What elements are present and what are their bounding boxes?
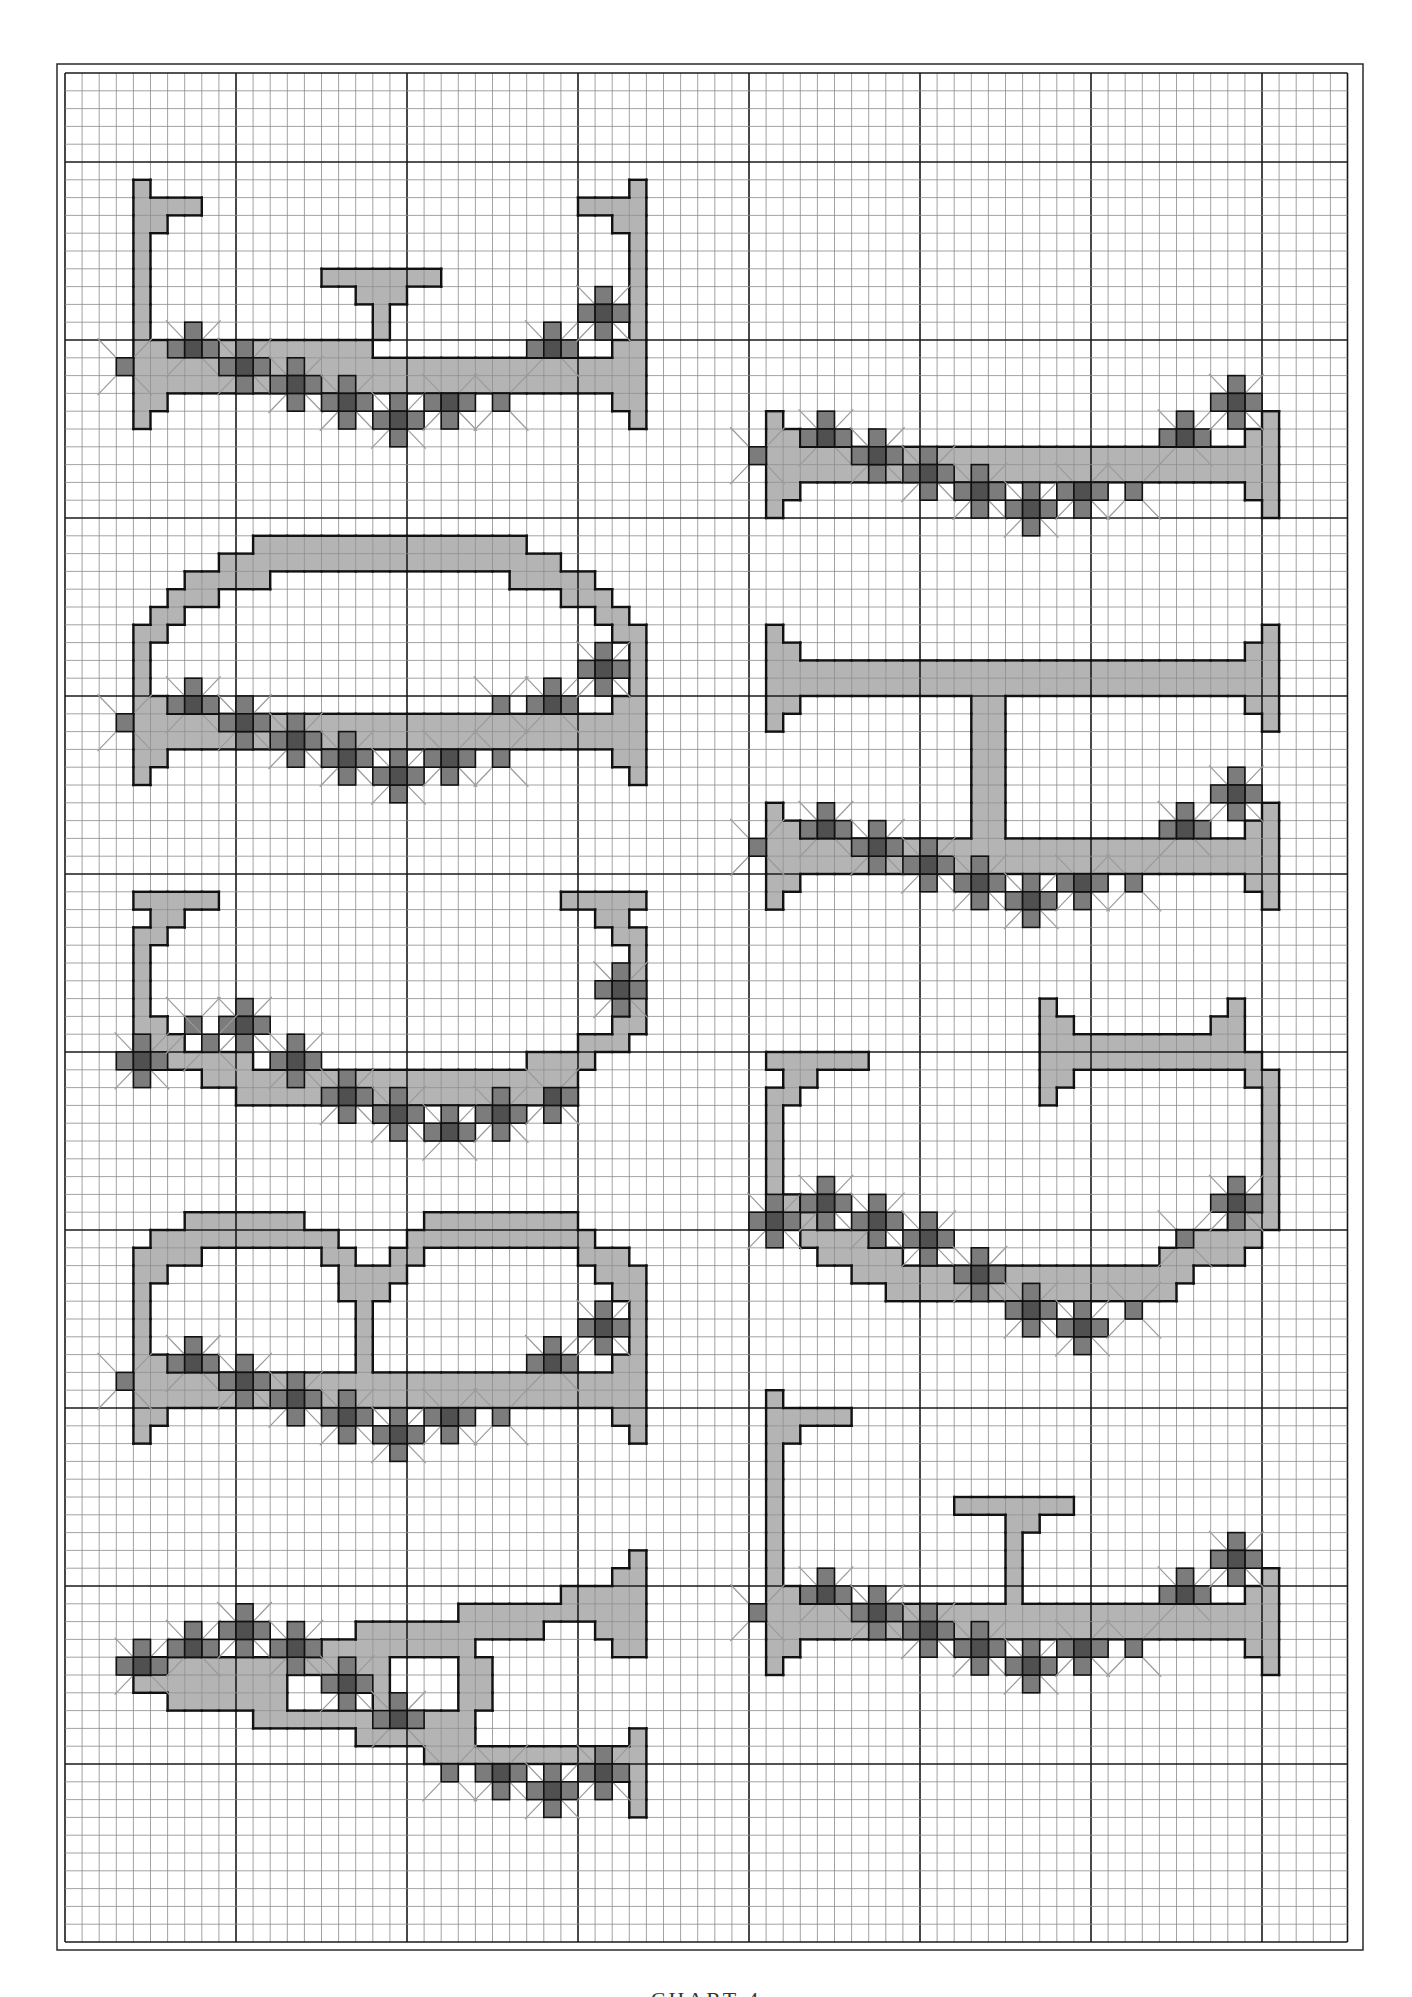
fill-cell [1194,1622,1211,1640]
fill-cell [133,393,150,411]
backstitch-line [320,412,338,431]
fill-cell [783,1604,800,1622]
fill-cell [595,1034,612,1052]
flower-petal-stitch [886,838,903,856]
backstitch-line [152,1638,170,1657]
backstitch-line [166,1335,184,1354]
flower-petal-stitch [988,1266,1005,1284]
fill-cell [1108,1052,1125,1070]
fill-cell [424,358,441,376]
flower-petal-stitch [253,1372,270,1390]
fill-cell [1245,643,1262,661]
fill-cell [1211,1604,1228,1622]
fill-cell [629,1764,646,1782]
fill-cell [1074,678,1091,696]
fill-cell [304,1088,321,1106]
flower-center-stitch [544,1782,561,1800]
fill-cell [527,1230,544,1248]
fill-cell [937,678,954,696]
flower-petal-stitch [852,838,869,856]
fill-cell [1177,1622,1194,1640]
fill-cell [1245,856,1262,874]
fill-cell [920,1283,937,1301]
fill-cell [920,1266,937,1284]
fill-cell [304,1711,321,1729]
fill-cell [1057,678,1074,696]
fill-cell [270,536,287,554]
backstitch-line [166,320,184,339]
fill-cell [1228,1604,1245,1622]
flower-petal-stitch [1159,429,1176,447]
backstitch-line [203,320,221,339]
flower-petal-stitch [168,1355,185,1373]
fill-cell [1091,447,1108,465]
fill-cell [270,554,287,572]
fill-cell [595,714,612,732]
fill-cell [612,892,629,910]
flower-petal-stitch [339,1390,356,1408]
fill-cell [766,482,783,500]
fill-cell [1245,1052,1262,1070]
fill-cell [424,1230,441,1248]
fill-cell [287,340,304,358]
fill-cell [766,1177,783,1195]
flower-petal-stitch [1245,1194,1262,1212]
fill-cell [304,536,321,554]
fill-cell [390,714,407,732]
fill-cell [1262,678,1279,696]
fill-cell [1006,1266,1023,1284]
flower-center-stitch [869,447,886,465]
flower-center-stitch [390,1426,407,1444]
fill-cell [458,1088,475,1106]
backstitch-line [357,1106,375,1125]
fill-cell [441,376,458,394]
fill-cell [629,1604,646,1622]
backstitch-line [1106,501,1124,520]
backstitch-line [1195,409,1213,428]
flower-center-stitch [287,376,304,394]
fill-cell [1108,1604,1125,1622]
flower-petal-stitch [835,1586,852,1604]
fill-cell [971,749,988,767]
fill-cell [1177,856,1194,874]
fill-cell [1091,838,1108,856]
fill-cell [1177,678,1194,696]
fill-cell [988,714,1005,732]
flower-petal-stitch [116,358,133,376]
flower-petal-stitch [116,1052,133,1070]
fill-cell [527,1604,544,1622]
flower-petal-stitch [373,1711,390,1729]
backstitch-line [747,1193,765,1212]
flower-petal-stitch [322,749,339,767]
fill-cell [1057,1283,1074,1301]
flower-petal-stitch [527,340,544,358]
flower-petal-stitch [1057,1319,1074,1337]
fill-cell [612,393,629,411]
fill-cell [510,554,527,572]
fill-cell [1057,1604,1074,1622]
fill-cell [1262,447,1279,465]
fill-cell [629,1355,646,1373]
fill-cell [766,1550,783,1568]
backstitch-line [268,1620,286,1639]
backstitch-line [254,1353,272,1372]
fill-cell [185,1657,202,1675]
fill-cell [544,1212,561,1230]
fill-cell [783,1586,800,1604]
flower-petal-stitch [886,447,903,465]
flower-center-stitch [920,856,937,874]
backstitch-line [989,893,1007,912]
fill-cell [920,678,937,696]
fill-cell [1245,1230,1262,1248]
fill-cell [1142,838,1159,856]
backstitch-line [1004,911,1022,930]
fill-cell [168,1390,185,1408]
fill-cell [578,571,595,589]
fill-cell [151,1355,168,1373]
flower-petal-stitch [544,1105,561,1123]
fill-cell [629,358,646,376]
fill-cell [612,1390,629,1408]
flower-petal-stitch [595,1746,612,1764]
fill-cell [1006,1622,1023,1640]
fill-cell [475,1212,492,1230]
